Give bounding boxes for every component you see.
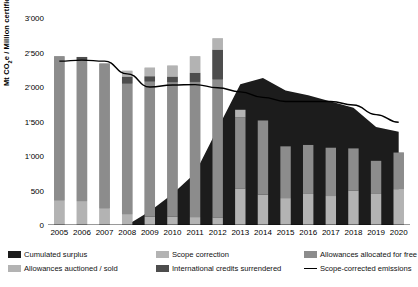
bar-segment bbox=[348, 191, 358, 226]
legend-item[interactable]: Scope correction bbox=[156, 250, 229, 259]
x-tick-label: 2007 bbox=[96, 228, 114, 237]
chart-container: Mt CO2e / Million certificates 05001'000… bbox=[0, 0, 418, 287]
bar-segment bbox=[167, 66, 177, 77]
chart-svg bbox=[48, 18, 410, 225]
bar-segment bbox=[54, 56, 64, 200]
bar-segment bbox=[212, 217, 222, 225]
bar-segment bbox=[190, 217, 200, 225]
x-tick-label: 2011 bbox=[186, 228, 203, 237]
x-tick-label: 2020 bbox=[390, 228, 408, 237]
x-tick-label: 2018 bbox=[345, 228, 363, 237]
y-tick-label: 500 bbox=[0, 186, 44, 195]
bar-segment bbox=[212, 50, 222, 80]
bar-segment bbox=[258, 195, 268, 225]
legend-label: International credits surrendered bbox=[172, 264, 281, 273]
bar-segment bbox=[190, 73, 200, 82]
x-tick-label: 2012 bbox=[209, 228, 227, 237]
bar-segment bbox=[145, 76, 155, 81]
bar-segment bbox=[371, 194, 381, 225]
bar-segment bbox=[167, 82, 177, 217]
x-tick-label: 2013 bbox=[231, 228, 249, 237]
bar-segment bbox=[303, 194, 313, 225]
bar-segment bbox=[145, 217, 155, 225]
legend-item[interactable]: Allowances auctioned / sold bbox=[8, 264, 118, 273]
bar-segment bbox=[326, 148, 336, 196]
legend-item[interactable]: Allowances allocated for free bbox=[304, 250, 417, 259]
x-axis-ticks: 2005200620072008200920102011201220132014… bbox=[48, 228, 410, 241]
cumulated-surplus-area bbox=[59, 78, 398, 225]
x-tick-label: 2006 bbox=[73, 228, 91, 237]
bar-segment bbox=[393, 153, 403, 190]
bar-segment bbox=[190, 56, 200, 73]
bar-segment bbox=[122, 84, 132, 215]
bar-segment bbox=[393, 189, 403, 225]
bar-segment bbox=[122, 214, 132, 225]
legend-label: Allowances allocated for free bbox=[320, 250, 417, 259]
legend-color-swatch bbox=[8, 251, 21, 258]
x-tick-label: 2005 bbox=[50, 228, 68, 237]
bar-segment bbox=[77, 201, 87, 225]
x-tick-label: 2017 bbox=[322, 228, 340, 237]
x-tick-label: 2009 bbox=[141, 228, 159, 237]
chart-legend: Cumulated surplusScope correctionAllowan… bbox=[8, 250, 412, 284]
bar-segment bbox=[122, 77, 132, 84]
x-tick-label: 2015 bbox=[277, 228, 295, 237]
legend-color-swatch bbox=[304, 251, 317, 258]
legend-color-swatch bbox=[156, 265, 169, 272]
bar-segment bbox=[190, 82, 200, 217]
legend-label: Cumulated surplus bbox=[24, 250, 87, 259]
bar-segment bbox=[371, 161, 381, 194]
bar-segment bbox=[167, 217, 177, 225]
x-tick-label: 2010 bbox=[164, 228, 182, 237]
plot-area bbox=[48, 18, 410, 225]
legend-item[interactable]: Cumulated surplus bbox=[8, 250, 87, 259]
bar-segment bbox=[99, 208, 109, 225]
y-tick-label: 2'500 bbox=[0, 48, 44, 57]
bar-segment bbox=[280, 198, 290, 225]
bar-segment bbox=[235, 188, 245, 225]
bar-segment bbox=[212, 79, 222, 217]
bar-segment bbox=[235, 117, 245, 188]
bar-segment bbox=[167, 77, 177, 83]
x-tick-label: 2019 bbox=[367, 228, 385, 237]
bar-segment bbox=[235, 110, 245, 118]
bar-segment bbox=[258, 120, 268, 194]
legend-item[interactable]: Scope-corrected emissions bbox=[304, 264, 412, 273]
bar-segment bbox=[54, 201, 64, 225]
bar-segment bbox=[303, 145, 313, 194]
bar-segment bbox=[145, 81, 155, 216]
y-tick-label: 1'000 bbox=[0, 152, 44, 161]
y-tick-label: 2'000 bbox=[0, 83, 44, 92]
y-tick-label: 1'500 bbox=[0, 117, 44, 126]
legend-label: Scope correction bbox=[172, 250, 229, 259]
legend-label: Scope-corrected emissions bbox=[320, 264, 412, 273]
bar-segment bbox=[280, 146, 290, 198]
x-tick-label: 2016 bbox=[299, 228, 317, 237]
legend-color-swatch bbox=[8, 265, 21, 272]
bar-segment bbox=[348, 148, 358, 190]
bar-segment bbox=[212, 38, 222, 49]
y-tick-label: 0 bbox=[0, 221, 44, 230]
x-tick-label: 2014 bbox=[254, 228, 272, 237]
bar-segment bbox=[326, 196, 336, 225]
bar-segment bbox=[99, 64, 109, 209]
legend-item[interactable]: International credits surrendered bbox=[156, 264, 281, 273]
legend-color-swatch bbox=[156, 251, 169, 258]
legend-label: Allowances auctioned / sold bbox=[24, 264, 118, 273]
y-axis-ticks: 05001'0001'5002'0002'5003'000 bbox=[0, 0, 44, 287]
legend-line-swatch bbox=[304, 265, 317, 272]
bar-segment bbox=[145, 68, 155, 77]
bar-segment bbox=[77, 60, 87, 201]
y-tick-label: 3'000 bbox=[0, 14, 44, 23]
x-tick-label: 2008 bbox=[118, 228, 136, 237]
